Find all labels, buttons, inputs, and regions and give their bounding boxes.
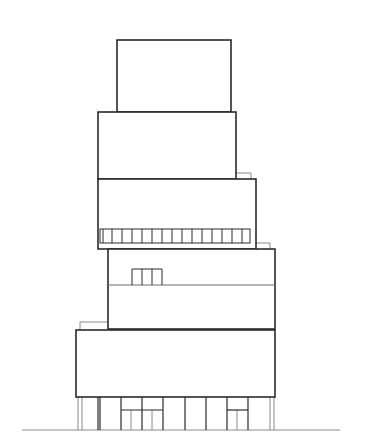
ledge-volume-2 xyxy=(236,173,251,179)
elevation-drawing xyxy=(0,0,367,444)
volume-2 xyxy=(98,112,236,179)
volume-5-bottom xyxy=(76,330,275,397)
volume-4 xyxy=(108,249,275,329)
volume-1-top xyxy=(117,40,231,112)
main-volumes xyxy=(76,40,275,397)
ground-floor xyxy=(98,397,248,430)
ledge-volume-3 xyxy=(256,243,270,249)
